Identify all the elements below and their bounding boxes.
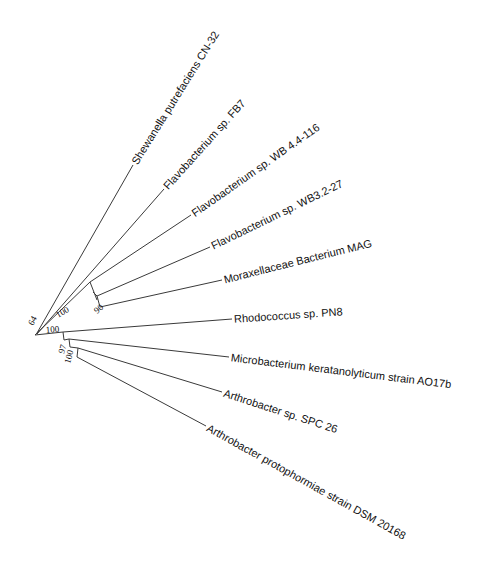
root-support-value: 64 bbox=[26, 314, 39, 327]
node-bracket bbox=[77, 348, 78, 357]
taxon-label: Moraxellaceae Bacterium MAG bbox=[222, 237, 373, 285]
leaf-branch bbox=[37, 165, 133, 333]
node-bracket bbox=[90, 282, 97, 300]
taxon-label: Rhodococcus sp. PN8 bbox=[234, 305, 343, 325]
taxon-label: Arthrobacter sp. SPC 26 bbox=[222, 387, 339, 435]
support-value: 100 bbox=[54, 304, 71, 320]
leaf-branch bbox=[63, 319, 232, 332]
node-bracket bbox=[69, 339, 70, 347]
support-value: 90 bbox=[92, 302, 106, 316]
internal-branch bbox=[64, 339, 69, 340]
internal-branch bbox=[70, 347, 78, 348]
taxon-label: Microbacterium keratanolyticum strain AO… bbox=[230, 351, 452, 390]
phylogenetic-tree: Shewanella putrefaciens CN-32Flavobacter… bbox=[0, 0, 481, 561]
leaf-branch bbox=[69, 339, 229, 357]
leaf-labels: Shewanella putrefaciens CN-32Flavobacter… bbox=[129, 29, 452, 542]
support-value: 100 bbox=[45, 324, 60, 335]
leaf-branch bbox=[78, 348, 222, 392]
leaf-branch bbox=[90, 215, 191, 282]
leaf-branch bbox=[100, 280, 222, 307]
support-value: 100 bbox=[62, 348, 75, 364]
leaf-branch bbox=[97, 247, 210, 296]
taxon-label: Arthrobacter protophormiae strain DSM 20… bbox=[205, 422, 408, 542]
node-bracket bbox=[63, 332, 64, 340]
